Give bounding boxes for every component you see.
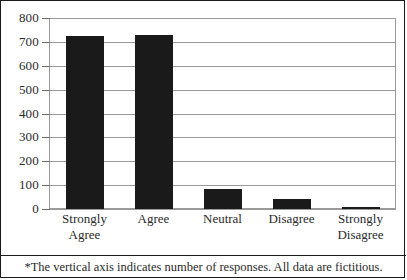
y-axis-tick-label: 500 bbox=[3, 83, 39, 96]
y-axis-tick-label: 600 bbox=[3, 59, 39, 72]
bar bbox=[342, 207, 380, 209]
bar bbox=[273, 199, 311, 209]
y-axis-tick-label: 400 bbox=[3, 107, 39, 120]
x-axis-category-label: Disagree bbox=[257, 211, 326, 227]
x-axis-label-line: Disagree bbox=[257, 211, 326, 227]
bar-slot bbox=[188, 19, 257, 209]
x-axis-label-line: Strongly bbox=[326, 211, 395, 227]
bar-slot bbox=[50, 19, 119, 209]
footnote-divider bbox=[1, 255, 406, 256]
y-axis-tick-label: 100 bbox=[3, 178, 39, 191]
y-axis-tick bbox=[42, 18, 50, 19]
y-axis-tick bbox=[42, 161, 50, 162]
y-axis-tick-label: 0 bbox=[3, 202, 39, 215]
x-axis-labels: StronglyAgreeAgreeNeutralDisagreeStrongl… bbox=[50, 211, 395, 253]
bar-slot bbox=[257, 19, 326, 209]
y-axis-tick-label: 800 bbox=[3, 11, 39, 24]
x-axis-category-label: Neutral bbox=[188, 211, 257, 227]
x-axis-label-line: Disagree bbox=[326, 227, 395, 243]
y-axis-tick-label: 200 bbox=[3, 154, 39, 167]
y-axis-tick bbox=[42, 66, 50, 67]
x-axis-category-label: StronglyAgree bbox=[50, 211, 119, 243]
x-axis-label-line: Agree bbox=[50, 227, 119, 243]
x-axis-category-label: Agree bbox=[119, 211, 188, 227]
bar-slot bbox=[119, 19, 188, 209]
y-axis-tick bbox=[42, 114, 50, 115]
bar-series bbox=[50, 19, 395, 209]
y-axis-tick-label: 700 bbox=[3, 35, 39, 48]
x-axis-category-label: StronglyDisagree bbox=[326, 211, 395, 243]
gridline bbox=[49, 209, 396, 210]
x-axis-label-line: Agree bbox=[119, 211, 188, 227]
x-axis-label-line: Strongly bbox=[50, 211, 119, 227]
y-axis-tick bbox=[42, 209, 50, 210]
y-axis-tick-label: 300 bbox=[3, 130, 39, 143]
y-axis-tick bbox=[42, 90, 50, 91]
y-axis-tick bbox=[42, 42, 50, 43]
footnote: *The vertical axis indicates number of r… bbox=[1, 257, 406, 278]
bar bbox=[66, 36, 104, 209]
x-axis-label-line: Neutral bbox=[188, 211, 257, 227]
bar-slot bbox=[326, 19, 395, 209]
y-axis-tick bbox=[42, 185, 50, 186]
bar bbox=[135, 35, 173, 209]
bar bbox=[204, 189, 242, 209]
y-axis-tick bbox=[42, 137, 50, 138]
figure-container: 0100200300400500600700800 StronglyAgreeA… bbox=[0, 0, 405, 278]
bar-chart: 0100200300400500600700800 StronglyAgreeA… bbox=[1, 1, 406, 253]
